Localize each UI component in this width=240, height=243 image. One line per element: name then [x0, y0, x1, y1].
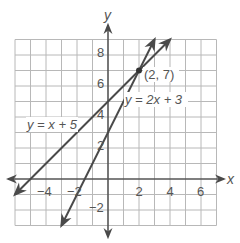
- tick-x-2: 2: [136, 184, 143, 199]
- tick-x-neg4: −4: [37, 184, 52, 199]
- tick-y-8: 8: [97, 45, 104, 60]
- tick-x-6: 6: [197, 184, 204, 199]
- line2-label: y = 2x + 3: [124, 92, 183, 107]
- intersection-point: [136, 68, 142, 74]
- tick-y-2: 2: [97, 138, 104, 153]
- line1-label: y = x + 5: [26, 117, 78, 132]
- tick-y-6: 6: [97, 76, 104, 91]
- intersection-label: (2, 7): [144, 67, 174, 82]
- coordinate-plane-chart: y x −4 −2 2 4 6 8 6 4 2 −2 y = x + 5 y =…: [0, 0, 240, 243]
- x-axis-label: x: [226, 171, 235, 187]
- tick-y-neg2: −2: [89, 200, 104, 215]
- y-axis-label: y: [103, 7, 112, 23]
- tick-y-4: 4: [97, 107, 104, 122]
- tick-x-neg2: −2: [67, 184, 82, 199]
- tick-x-4: 4: [167, 184, 174, 199]
